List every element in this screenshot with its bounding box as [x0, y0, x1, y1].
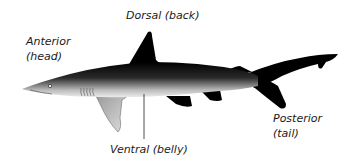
pelvic-fin	[166, 96, 192, 107]
ventral-label: Ventral (belly)	[110, 142, 188, 157]
posterior-label: Posterior (tail)	[273, 111, 322, 141]
pectoral-fin	[96, 94, 130, 132]
dorsal-fin	[128, 32, 168, 67]
eye	[48, 84, 51, 87]
shark-body	[22, 62, 258, 97]
anterior-label: Anterior (head)	[26, 34, 70, 64]
posterior-label-line1: Posterior	[273, 111, 322, 126]
tail-upper-lobe	[246, 54, 338, 88]
anterior-label-line1: Anterior	[26, 34, 70, 49]
posterior-label-line2: (tail)	[273, 126, 322, 141]
dorsal-label: Dorsal (back)	[126, 8, 199, 23]
anterior-label-line2: (head)	[26, 49, 70, 64]
